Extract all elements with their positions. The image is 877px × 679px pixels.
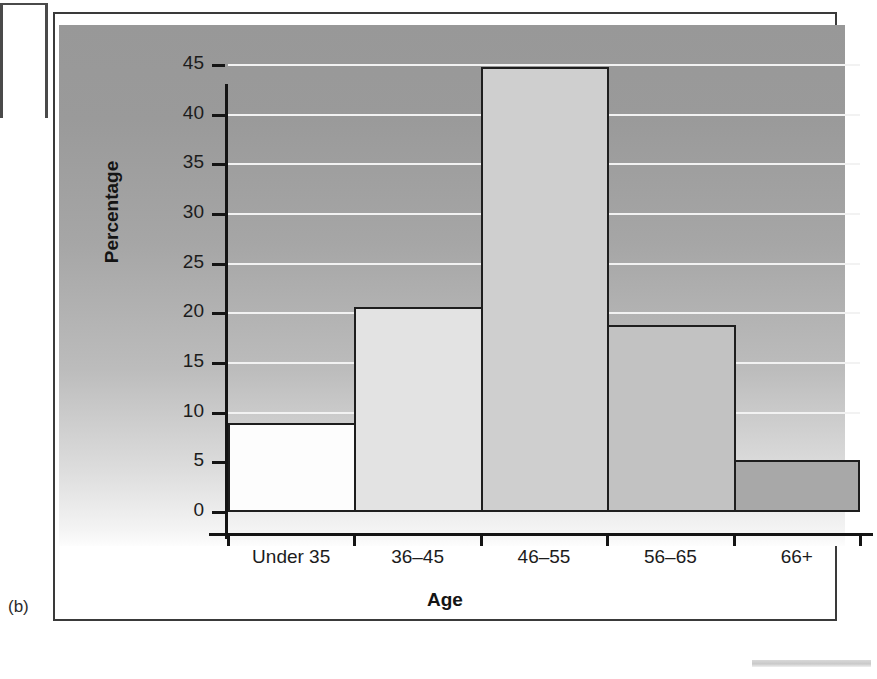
bar (607, 325, 735, 512)
chart-frame: 051015202530354045 Under 3536–4546–5556–… (53, 12, 837, 621)
x-axis-line (209, 533, 873, 536)
y-axis-tick-label: 20 (154, 300, 204, 322)
y-axis-tick-label: 45 (154, 52, 204, 74)
y-axis-tick-label: 10 (154, 400, 204, 422)
x-axis-tick (353, 533, 356, 546)
y-axis-tick (212, 64, 225, 67)
y-axis-tick (212, 312, 225, 315)
plot-panel: 051015202530354045 Under 3536–4546–5556–… (59, 25, 845, 546)
x-axis-tick-label: 66+ (717, 546, 877, 568)
y-axis-tick (212, 263, 225, 266)
bar (228, 423, 356, 512)
y-axis-tick-label: 35 (154, 151, 204, 173)
x-axis-tick (480, 533, 483, 546)
y-axis-tick-label: 30 (154, 201, 204, 223)
x-axis-title: Age (55, 589, 835, 611)
bar (354, 307, 482, 512)
y-axis-tick (212, 114, 225, 117)
page-edge-artifact (752, 660, 871, 667)
x-axis-tick (733, 533, 736, 546)
y-axis-tick (212, 163, 225, 166)
plot-area (228, 65, 860, 512)
y-axis-tick-label: 15 (154, 350, 204, 372)
y-axis-tick (212, 511, 225, 514)
y-axis-tick-label: 40 (154, 102, 204, 124)
y-axis-tick (212, 213, 225, 216)
y-axis-tick (212, 412, 225, 415)
x-axis-tick (227, 533, 230, 546)
y-axis-line (225, 84, 228, 539)
y-axis-title: Percentage (101, 122, 123, 302)
figure-label: (b) (8, 597, 29, 617)
adjacent-figure-fragment (0, 3, 48, 118)
y-axis-tick-label: 25 (154, 251, 204, 273)
x-axis-tick (606, 533, 609, 546)
y-axis-tick (212, 461, 225, 464)
bar (481, 67, 609, 512)
y-axis-tick (212, 362, 225, 365)
y-axis-tick-label: 5 (154, 449, 204, 471)
bar (734, 460, 860, 512)
x-axis-tick (859, 533, 862, 546)
y-axis-tick-label: 0 (154, 499, 204, 521)
